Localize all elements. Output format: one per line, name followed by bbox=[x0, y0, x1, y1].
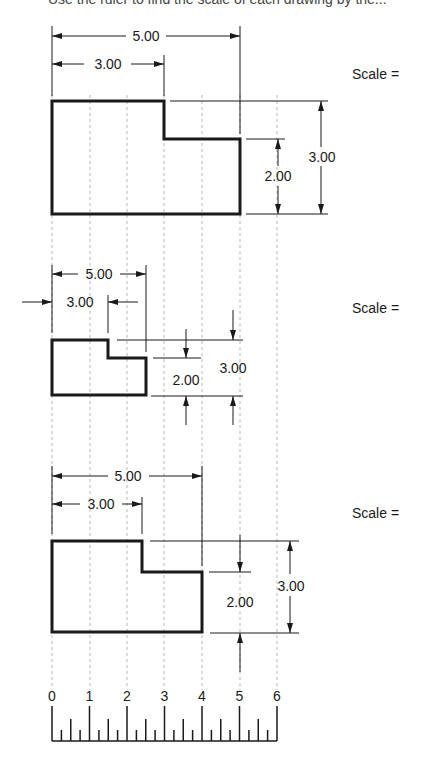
view-3-overall-height: 3.00 bbox=[277, 578, 304, 594]
ruler-label-4: 4 bbox=[198, 688, 206, 704]
ruler-label-3: 3 bbox=[161, 688, 169, 704]
view-3-step-height: 2.00 bbox=[226, 594, 253, 610]
view-2-shape bbox=[52, 340, 146, 395]
view-2-overall-height: 3.00 bbox=[219, 360, 246, 376]
view-3: 5.00 3.00 2.00 3.00 Scale = bbox=[52, 466, 399, 672]
view-1: 5.00 3.00 2.00 3.00 Scale = bbox=[52, 26, 399, 214]
view-2-scale-label: Scale = bbox=[352, 300, 399, 316]
view-1-step-width: 3.00 bbox=[94, 56, 121, 72]
ruler: 0 1 2 3 4 5 6 bbox=[48, 688, 281, 741]
view-1-overall-width: 5.00 bbox=[132, 28, 159, 44]
ruler-label-6: 6 bbox=[273, 688, 281, 704]
scale-drawing-worksheet: 5.00 3.00 2.00 3.00 Scale = 5 bbox=[0, 0, 430, 773]
view-3-scale-label: Scale = bbox=[352, 505, 399, 521]
view-2: 5.00 3.00 2.00 3.00 Scale = bbox=[22, 265, 399, 425]
ruler-label-5: 5 bbox=[236, 688, 244, 704]
view-1-shape bbox=[52, 101, 240, 214]
ruler-label-0: 0 bbox=[48, 688, 56, 704]
view-3-overall-width: 5.00 bbox=[114, 468, 141, 484]
view-1-step-height: 2.00 bbox=[264, 168, 291, 184]
view-1-scale-label: Scale = bbox=[352, 66, 399, 82]
view-2-overall-width: 5.00 bbox=[85, 266, 112, 282]
view-3-step-width: 3.00 bbox=[87, 496, 114, 512]
ruler-label-2: 2 bbox=[123, 688, 131, 704]
view-1-overall-height: 3.00 bbox=[308, 149, 335, 165]
ruler-label-1: 1 bbox=[86, 688, 94, 704]
view-2-step-height: 2.00 bbox=[172, 372, 199, 388]
view-2-step-width: 3.00 bbox=[66, 294, 93, 310]
